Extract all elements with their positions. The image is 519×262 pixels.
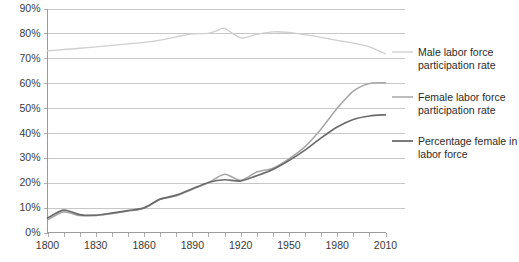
gridlines-group	[48, 10, 406, 209]
y-axis-tick-label: 40%	[19, 127, 40, 139]
y-axis-tick-label: 0%	[25, 226, 40, 238]
x-axis-tick-label: 1950	[277, 239, 301, 251]
y-axis-tick-label: 70%	[19, 52, 40, 64]
y-axis-tick-label: 30%	[19, 151, 40, 163]
x-axis-labels: 18001830186018901920195019802010	[36, 239, 398, 251]
y-axis-tick-label: 20%	[19, 176, 40, 188]
legend: Male labor forceparticipation rateFemale…	[392, 46, 517, 160]
x-axis-tick-label: 2010	[374, 239, 398, 251]
legend-label-1-line2: participation rate	[418, 104, 496, 116]
chart-container: 0%10%20%30%40%50%60%70%80%90% 1800183018…	[0, 0, 519, 262]
y-axis-tick-label: 50%	[19, 102, 40, 114]
series-line-1	[48, 83, 386, 220]
y-axis-tick-label: 90%	[19, 2, 40, 14]
x-axis-tick-label: 1920	[229, 239, 253, 251]
series-group	[48, 28, 386, 220]
legend-label-2: Percentage female in	[418, 135, 517, 147]
series-line-0	[48, 28, 386, 54]
series-line-2	[48, 115, 386, 218]
x-axis-tick-label: 1980	[326, 239, 350, 251]
x-axis-tick-label: 1890	[181, 239, 205, 251]
line-chart: 0%10%20%30%40%50%60%70%80%90% 1800183018…	[0, 0, 519, 262]
legend-label-0-line2: participation rate	[418, 59, 496, 71]
x-axis-tick-label: 1830	[84, 239, 108, 251]
y-axis-tick-label: 80%	[19, 27, 40, 39]
legend-label-1: Female labor force	[418, 91, 506, 103]
x-axis-tick-label: 1860	[132, 239, 156, 251]
x-axis-tick-label: 1800	[36, 239, 60, 251]
y-axis-tick-label: 60%	[19, 77, 40, 89]
axes-group	[44, 9, 387, 237]
legend-label-2-line2: labor force	[418, 148, 468, 160]
legend-label-0: Male labor force	[418, 46, 493, 58]
y-axis-labels: 0%10%20%30%40%50%60%70%80%90%	[19, 2, 40, 238]
y-axis-tick-label: 10%	[19, 201, 40, 213]
